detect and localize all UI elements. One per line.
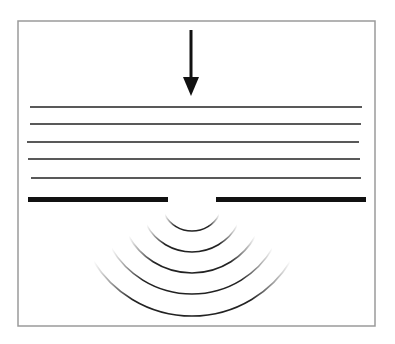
circular-wavefront [165, 215, 220, 231]
circular-wavefront [129, 237, 255, 274]
frame [18, 21, 375, 326]
incident-arrow [183, 30, 199, 96]
diffraction-diagram [0, 0, 395, 344]
circular-wavefront [147, 225, 238, 252]
circular-wavefront [94, 261, 291, 316]
arrow-head-icon [183, 77, 199, 96]
plane-wavefronts [27, 107, 362, 178]
circular-wavefronts [94, 215, 291, 316]
circular-wavefront [111, 248, 272, 294]
